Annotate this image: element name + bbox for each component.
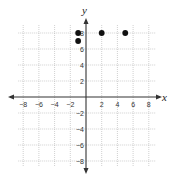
- x-tick-label: 2: [100, 101, 104, 108]
- x-tick-label: −4: [51, 101, 59, 108]
- x-tick-label: 6: [131, 101, 135, 108]
- y-tick-label: −4: [76, 126, 84, 133]
- x-tick-label: −8: [19, 101, 27, 108]
- y-tick-label: −2: [76, 110, 84, 117]
- y-tick-label: 4: [80, 62, 84, 69]
- y-tick-label: 2: [80, 78, 84, 85]
- y-axis-up-arrow-icon: [84, 18, 89, 24]
- x-tick-label: 4: [115, 101, 119, 108]
- data-point: [75, 30, 81, 36]
- x-tick-label: −6: [35, 101, 43, 108]
- x-tick-label: 8: [147, 101, 151, 108]
- x-tick-label: −2: [66, 101, 74, 108]
- grid-lines: [18, 25, 156, 166]
- y-tick-label: 6: [80, 46, 84, 53]
- y-tick-label: −6: [76, 142, 84, 149]
- y-axis-label: y: [81, 4, 87, 16]
- x-axis-label: x: [161, 91, 167, 103]
- y-tick-label: −8: [76, 158, 84, 165]
- data-point: [75, 38, 81, 44]
- data-point: [122, 30, 128, 36]
- data-point: [99, 30, 105, 36]
- x-axis-left-arrow-icon: [8, 95, 14, 100]
- coordinate-plane: −8−6−4−22468−8−6−4−22468 x y: [0, 0, 176, 180]
- y-axis-down-arrow-icon: [84, 168, 89, 174]
- axes: [8, 18, 162, 174]
